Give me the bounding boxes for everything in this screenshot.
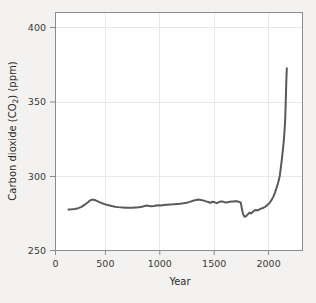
ytick-label-300: 300 xyxy=(28,171,46,182)
y-tick-marks xyxy=(50,28,55,251)
co2-line-chart: 400 350 300 250 0 500 1000 1500 2000 Yea… xyxy=(0,0,316,303)
x-tick-labels: 0 500 1000 1500 2000 xyxy=(52,258,280,269)
ytick-label-400: 400 xyxy=(28,22,46,33)
xtick-label-2000: 2000 xyxy=(257,258,281,269)
y-axis-title-suffix: ) (ppm) xyxy=(7,61,18,98)
ytick-label-350: 350 xyxy=(28,96,46,107)
plot-area-background xyxy=(55,12,303,250)
xtick-label-500: 500 xyxy=(96,258,114,269)
xtick-label-0: 0 xyxy=(52,258,58,269)
xtick-label-1000: 1000 xyxy=(148,258,172,269)
y-axis-title: Carbon dioxide (CO2) (ppm) xyxy=(7,61,20,200)
y-axis-title-prefix: Carbon dioxide (CO xyxy=(7,103,18,200)
xtick-label-1500: 1500 xyxy=(202,258,226,269)
figure-container: 400 350 300 250 0 500 1000 1500 2000 Yea… xyxy=(0,0,316,303)
y-tick-labels: 400 350 300 250 xyxy=(28,22,46,256)
x-axis-title: Year xyxy=(168,276,191,287)
ytick-label-250: 250 xyxy=(28,245,46,256)
